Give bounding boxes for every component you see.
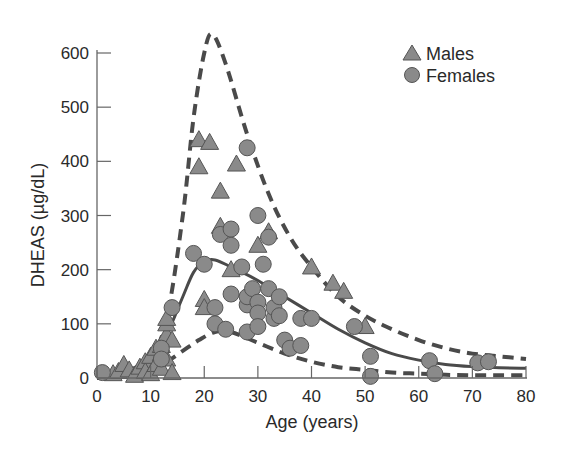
female-data-point xyxy=(250,208,266,224)
y-axis-title: DHEAS (µg/dL) xyxy=(28,163,48,287)
x-tick-label: 20 xyxy=(195,387,214,406)
male-data-point xyxy=(190,158,208,174)
legend-triangle-icon xyxy=(403,45,421,60)
female-data-point xyxy=(293,338,309,354)
y-tick-label: 100 xyxy=(61,315,89,334)
legend: Males Females xyxy=(403,44,495,86)
female-data-point xyxy=(218,321,234,337)
legend-label-males: Males xyxy=(426,44,474,64)
female-data-point xyxy=(234,259,250,275)
female-data-point xyxy=(250,319,266,335)
female-data-point xyxy=(480,354,496,370)
female-data-point xyxy=(164,300,180,316)
y-tick-label: 400 xyxy=(61,152,89,171)
x-tick-label: 10 xyxy=(141,387,160,406)
y-tick-label: 600 xyxy=(61,44,89,63)
x-tick-label: 80 xyxy=(517,387,536,406)
female-data-point xyxy=(223,286,239,302)
female-data-point xyxy=(196,256,212,272)
y-tick-label: 0 xyxy=(80,369,89,388)
x-tick-label: 0 xyxy=(92,387,101,406)
y-tick-label: 300 xyxy=(61,207,89,226)
female-data-point xyxy=(362,348,378,364)
y-tick-label: 200 xyxy=(61,261,89,280)
x-tick-label: 30 xyxy=(248,387,267,406)
female-data-point xyxy=(207,300,223,316)
x-axis-title: Age (years) xyxy=(265,412,358,432)
female-data-point xyxy=(304,310,320,326)
x-tick-label: 60 xyxy=(409,387,428,406)
female-data-point xyxy=(255,256,271,272)
dheas-chart: 0100200300400500600 01020304050607080 Ag… xyxy=(0,0,565,457)
y-tick-label: 500 xyxy=(61,98,89,117)
female-data-point xyxy=(346,319,362,335)
y-ticks: 0100200300400500600 xyxy=(61,44,111,388)
x-tick-label: 50 xyxy=(356,387,375,406)
legend-circle-icon xyxy=(405,68,420,83)
x-tick-label: 70 xyxy=(463,387,482,406)
male-data-point xyxy=(211,182,229,198)
female-data-point xyxy=(239,140,255,156)
female-data-point xyxy=(271,308,287,324)
male-data-point xyxy=(227,155,245,171)
female-data-point xyxy=(223,237,239,253)
x-tick-label: 40 xyxy=(302,387,321,406)
female-data-point xyxy=(153,351,169,367)
female-data-point xyxy=(271,289,287,305)
female-data-point xyxy=(427,366,443,382)
female-data-point xyxy=(261,229,277,245)
legend-label-females: Females xyxy=(426,66,495,86)
female-data-point xyxy=(223,221,239,237)
